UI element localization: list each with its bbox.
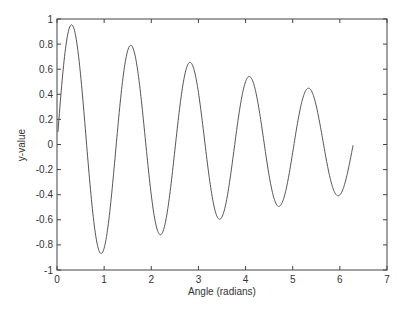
y-tick-label: -0.8 (36, 239, 54, 250)
x-axis-label: Angle (radians) (188, 286, 256, 297)
plot-area (57, 19, 387, 270)
y-tick-label: 0.8 (39, 39, 53, 50)
line-chart: 01234567 -1-0.8-0.6-0.4-0.200.20.40.60.8… (0, 0, 409, 312)
x-tick-label: 0 (54, 274, 60, 285)
y-tick-label: 0.4 (39, 89, 53, 100)
x-tick-label: 5 (290, 274, 296, 285)
x-tick-label: 3 (196, 274, 202, 285)
y-tick-label: 0.2 (39, 114, 53, 125)
y-tick-label: 1 (47, 14, 53, 25)
y-tick-label: 0.6 (39, 64, 53, 75)
y-tick-label: -0.6 (36, 214, 54, 225)
y-tick-label: -1 (44, 265, 53, 276)
x-tick-label: 7 (384, 274, 390, 285)
x-tick-label: 2 (149, 274, 155, 285)
y-tick-label: -0.2 (36, 164, 54, 175)
y-tick-label: 0 (47, 139, 53, 150)
x-tick-label: 4 (243, 274, 249, 285)
y-tick-label: -0.4 (36, 189, 54, 200)
y-axis-label: y-value (16, 128, 27, 161)
x-tick-label: 6 (337, 274, 343, 285)
x-tick-label: 1 (101, 274, 107, 285)
